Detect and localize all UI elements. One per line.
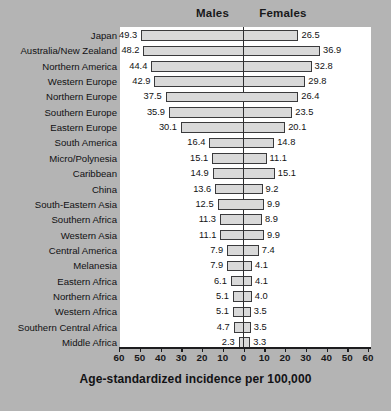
chart-row: Northern Europe37.526.4 <box>0 89 391 104</box>
x-axis-line <box>120 347 371 349</box>
x-axis-title: Age-standardized incidence per 100,000 <box>0 372 391 386</box>
row-label: Western Africa <box>0 304 117 319</box>
column-header-females: Females <box>252 7 314 19</box>
row-label: Melanesia <box>0 258 117 273</box>
value-label-males: 6.1 <box>177 274 227 289</box>
value-label-males: 48.2 <box>89 43 139 58</box>
chart-row: Japan49.326.5 <box>0 28 391 43</box>
value-label-males: 7.9 <box>173 243 223 258</box>
bar-females <box>244 322 251 333</box>
bar-females <box>244 76 306 87</box>
value-label-males: 35.9 <box>115 105 165 120</box>
bar-females <box>244 291 252 302</box>
value-label-females: 11.1 <box>270 151 320 166</box>
row-label: China <box>0 182 117 197</box>
bar-males <box>213 168 244 179</box>
bar-females <box>244 199 265 210</box>
bar-males <box>231 276 244 287</box>
bar-males <box>233 291 244 302</box>
value-label-females: 4.1 <box>255 274 305 289</box>
value-label-males: 13.6 <box>161 182 211 197</box>
value-label-females: 9.2 <box>266 182 316 197</box>
row-label: Micro/Polynesia <box>0 151 117 166</box>
chart-figure: Males Females Japan49.326.5Australia/New… <box>0 0 391 411</box>
row-label: Middle Africa <box>0 335 117 350</box>
chart-row: Eastern Africa6.14.1 <box>0 274 391 289</box>
bar-females <box>244 122 286 133</box>
bar-females <box>244 46 321 57</box>
bar-males <box>218 199 244 210</box>
row-label: Southern Africa <box>0 212 117 227</box>
bar-males <box>154 76 243 87</box>
value-label-females: 14.8 <box>277 135 327 150</box>
chart-row: Southern Europe35.923.5 <box>0 105 391 120</box>
bar-males <box>166 92 244 103</box>
row-label: South America <box>0 135 117 150</box>
bar-females <box>244 168 275 179</box>
chart-row: China13.69.2 <box>0 182 391 197</box>
value-label-males: 11.3 <box>166 212 216 227</box>
row-label: Northern Africa <box>0 289 117 304</box>
value-label-females: 26.5 <box>301 28 351 43</box>
bar-females <box>244 30 299 41</box>
bar-males <box>215 184 243 195</box>
bar-females <box>244 153 267 164</box>
value-label-females: 7.4 <box>262 243 312 258</box>
value-label-males: 16.4 <box>155 135 205 150</box>
chart-row: South America16.414.8 <box>0 135 391 150</box>
value-label-males: 4.7 <box>180 320 230 335</box>
bar-males <box>233 307 244 318</box>
value-label-males: 44.4 <box>97 59 147 74</box>
value-label-males: 12.5 <box>164 197 214 212</box>
bar-males <box>220 214 243 225</box>
bar-females <box>244 261 253 272</box>
chart-row: Melanesia7.94.1 <box>0 258 391 273</box>
value-label-females: 20.1 <box>288 120 338 135</box>
bar-males <box>141 30 243 41</box>
row-label: Western Asia <box>0 228 117 243</box>
chart-row: Western Asia11.19.9 <box>0 228 391 243</box>
value-label-females: 4.0 <box>255 289 305 304</box>
bar-females <box>244 184 263 195</box>
value-label-males: 49.3 <box>87 28 137 43</box>
chart-row: Eastern Europe30.120.1 <box>0 120 391 135</box>
column-header-males: Males <box>185 7 240 19</box>
value-label-females: 15.1 <box>278 166 328 181</box>
value-label-males: 5.1 <box>179 289 229 304</box>
row-label: Central America <box>0 243 117 258</box>
bar-females <box>244 92 299 103</box>
row-label: Eastern Africa <box>0 274 117 289</box>
row-label: South-Eastern Asia <box>0 197 117 212</box>
bar-males <box>234 322 244 333</box>
value-label-males: 42.9 <box>100 74 150 89</box>
value-label-females: 3.5 <box>254 320 304 335</box>
bar-males <box>151 61 243 72</box>
row-label: Southern Europe <box>0 105 117 120</box>
chart-row: Western Europe42.929.8 <box>0 74 391 89</box>
chart-row: South-Eastern Asia12.59.9 <box>0 197 391 212</box>
bar-females <box>244 230 265 241</box>
value-label-females: 29.8 <box>308 74 358 89</box>
chart-row: Central America7.97.4 <box>0 243 391 258</box>
row-label: Western Europe <box>0 74 117 89</box>
value-label-males: 7.9 <box>173 258 223 273</box>
row-label: Southern Central Africa <box>0 320 117 335</box>
bar-females <box>244 107 293 118</box>
value-label-females: 23.5 <box>295 105 345 120</box>
chart-row: Western Africa5.13.5 <box>0 304 391 319</box>
chart-row: Northern Africa5.14.0 <box>0 289 391 304</box>
value-label-females: 4.1 <box>255 258 305 273</box>
value-label-females: 8.9 <box>265 212 315 227</box>
value-label-females: 36.9 <box>323 43 373 58</box>
bar-females <box>244 276 253 287</box>
row-label: Eastern Europe <box>0 120 117 135</box>
value-label-females: 3.5 <box>254 304 304 319</box>
chart-row: Northern America44.432.8 <box>0 59 391 74</box>
bar-males <box>220 230 243 241</box>
bar-females <box>244 138 275 149</box>
bar-males <box>209 138 243 149</box>
value-label-females: 26.4 <box>301 89 351 104</box>
chart-row: Southern Africa11.38.9 <box>0 212 391 227</box>
value-label-males: 30.1 <box>127 120 177 135</box>
bar-males <box>143 46 243 57</box>
